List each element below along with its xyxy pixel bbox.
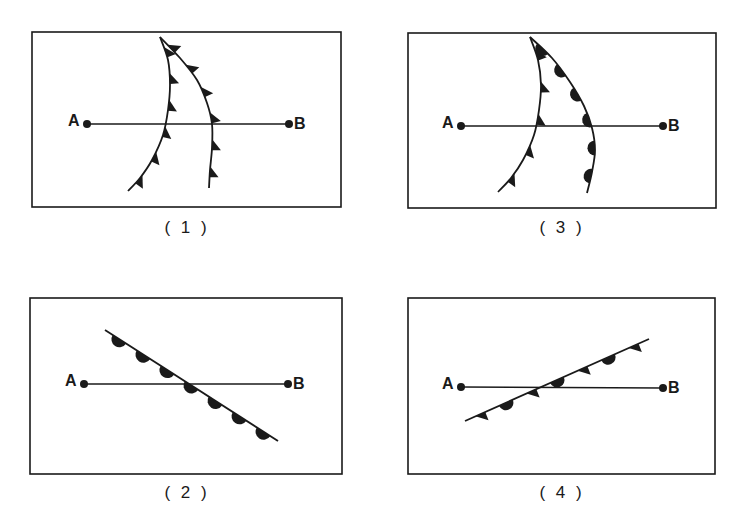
warm-front xyxy=(105,330,278,441)
panel-4-caption: ( 4 ) xyxy=(539,483,584,503)
warm-front-semicircle-icon xyxy=(601,354,615,365)
point-b-label: B xyxy=(293,376,305,392)
cross-section-line-a-b xyxy=(461,387,663,388)
cold-front-triangle-icon xyxy=(162,127,171,139)
cold-front-triangle-icon xyxy=(541,82,550,93)
point-b-label: B xyxy=(294,116,306,132)
point-b-dot xyxy=(285,120,293,128)
point-a-label: A xyxy=(442,376,454,392)
panel-3-caption: ( 3 ) xyxy=(539,218,584,238)
cold-front xyxy=(128,37,179,191)
point-b-dot xyxy=(659,384,667,392)
cold-front-triangle-icon xyxy=(186,65,199,73)
warm-front-semicircle-icon xyxy=(550,377,564,388)
point-a-label: A xyxy=(65,373,77,389)
point-a-dot xyxy=(457,122,465,130)
front-line xyxy=(128,37,170,191)
cold-front-triangle-icon xyxy=(212,139,221,150)
point-b-dot xyxy=(284,380,292,388)
panel-2-caption: ( 2 ) xyxy=(164,483,209,503)
point-a-dot xyxy=(457,383,465,391)
cold-front-triangle-icon xyxy=(210,166,219,177)
cold-front xyxy=(498,37,550,192)
warm-front-semicircle-icon xyxy=(554,64,566,78)
point-b-label: B xyxy=(668,380,680,396)
stationary-front xyxy=(465,339,649,421)
panel-1-caption: ( 1 ) xyxy=(164,218,209,238)
front-line xyxy=(498,37,541,192)
point-a-label: A xyxy=(442,115,454,131)
point-b-dot xyxy=(659,122,667,130)
warm-front xyxy=(530,37,595,193)
cold-front-triangle-icon xyxy=(170,73,179,84)
weather-fronts-diagram xyxy=(0,0,733,529)
point-b-label: B xyxy=(668,118,680,134)
point-a-label: A xyxy=(68,113,80,129)
warm-front-semicircle-icon xyxy=(499,400,513,411)
point-a-dot xyxy=(80,380,88,388)
cold-front xyxy=(160,37,221,188)
warm-front-semicircle-icon xyxy=(587,140,595,155)
cold-front-triangle-icon xyxy=(168,100,177,111)
point-a-dot xyxy=(83,120,91,128)
